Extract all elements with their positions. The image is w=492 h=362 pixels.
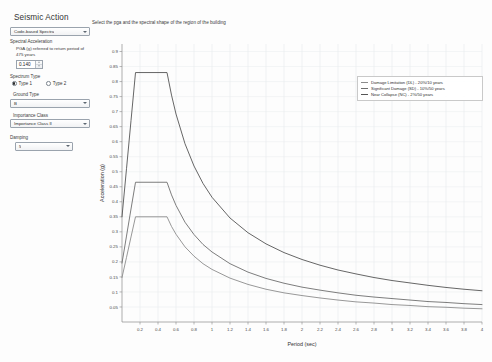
svg-text:0.55: 0.55 — [109, 154, 118, 159]
spectrum-type-label: Spectrum Type — [10, 74, 90, 79]
legend-item: Near Collapse (NC) - 2%/50 years — [361, 91, 479, 97]
chart-legend: Damage Limitation (DL) - 20%/10 years Si… — [357, 76, 483, 101]
radio-type-1[interactable]: Type 1 — [12, 81, 32, 86]
legend-label-dl: Damage Limitation (DL) - 20%/10 years — [371, 80, 443, 85]
svg-text:0.9: 0.9 — [112, 49, 119, 54]
svg-text:2.6: 2.6 — [353, 327, 360, 332]
svg-text:3.8: 3.8 — [461, 327, 468, 332]
damping-dropdown[interactable]: 5 — [15, 142, 73, 151]
svg-text:3.6: 3.6 — [443, 327, 450, 332]
seismic-action-panel: Seismic Action Code-based Spectra Spectr… — [10, 10, 90, 151]
svg-text:2: 2 — [301, 327, 304, 332]
svg-text:0.15: 0.15 — [109, 275, 118, 280]
svg-text:2.8: 2.8 — [371, 327, 378, 332]
radio-type-2-dot — [46, 81, 51, 86]
chevron-down-icon — [83, 31, 87, 33]
svg-text:4: 4 — [481, 327, 484, 332]
chevron-down-icon — [83, 102, 87, 104]
legend-label-nc: Near Collapse (NC) - 2%/50 years — [371, 92, 433, 97]
svg-text:0.2: 0.2 — [137, 327, 144, 332]
importance-class-value: Importance Class II — [11, 121, 52, 126]
svg-text:0.85: 0.85 — [109, 64, 118, 69]
damping-value: 5 — [16, 144, 21, 149]
radio-type-2[interactable]: Type 2 — [46, 81, 66, 86]
svg-text:3.4: 3.4 — [425, 327, 432, 332]
x-axis-title: Period (sec) — [287, 341, 316, 347]
svg-text:3: 3 — [391, 327, 394, 332]
y-axis-title: Acceleration (g) — [99, 164, 105, 202]
svg-text:0.3: 0.3 — [112, 229, 119, 234]
legend-swatch-nc — [361, 94, 368, 95]
svg-text:0.7: 0.7 — [112, 109, 119, 114]
svg-text:1.8: 1.8 — [281, 327, 288, 332]
instruction-text: Select the pga and the spectral shape of… — [92, 20, 226, 25]
damping-label: Damping — [10, 135, 90, 140]
spectra-source-dropdown[interactable]: Code-based Spectra — [10, 27, 90, 36]
legend-swatch-dl — [361, 82, 368, 83]
pga-stepper[interactable]: 0.140 — [16, 60, 43, 70]
svg-text:0.4: 0.4 — [155, 327, 162, 332]
svg-text:0.5: 0.5 — [112, 169, 119, 174]
spectrum-type-radio-group: Type 1 Type 2 — [12, 81, 90, 86]
svg-text:2.2: 2.2 — [317, 327, 324, 332]
svg-text:1.6: 1.6 — [263, 327, 270, 332]
svg-text:0.75: 0.75 — [109, 94, 118, 99]
svg-text:0.05: 0.05 — [109, 305, 118, 310]
svg-text:0.8: 0.8 — [191, 327, 198, 332]
svg-text:0.45: 0.45 — [109, 184, 118, 189]
svg-text:0.1: 0.1 — [112, 290, 119, 295]
svg-text:2.4: 2.4 — [335, 327, 342, 332]
ground-type-value: B — [11, 101, 17, 106]
seismic-action-window: Seismic Action Code-based Spectra Spectr… — [0, 0, 492, 362]
pga-spinner-buttons[interactable] — [35, 61, 42, 69]
svg-text:1.4: 1.4 — [245, 327, 252, 332]
importance-class-dropdown[interactable]: Importance Class II — [10, 119, 90, 128]
svg-text:0.25: 0.25 — [109, 244, 118, 249]
svg-text:0.35: 0.35 — [109, 214, 118, 219]
spectra-source-value: Code-based Spectra — [11, 29, 54, 34]
legend-swatch-sd — [361, 88, 368, 89]
page-title: Seismic Action — [14, 13, 90, 22]
svg-text:0.6: 0.6 — [173, 327, 180, 332]
chevron-down-icon — [66, 145, 70, 147]
svg-text:1.2: 1.2 — [227, 327, 234, 332]
svg-text:0.2: 0.2 — [112, 259, 119, 264]
svg-text:0.8: 0.8 — [112, 79, 119, 84]
ground-type-label: Ground Type — [13, 92, 90, 97]
chevron-down-icon — [83, 123, 87, 125]
pga-decrement-button[interactable] — [36, 65, 42, 68]
svg-text:0.4: 0.4 — [112, 199, 119, 204]
pga-value: 0.140 — [17, 62, 31, 67]
radio-type-1-dot — [12, 81, 17, 86]
importance-class-label: Importance Class — [13, 113, 90, 118]
ground-type-dropdown[interactable]: B — [10, 99, 90, 108]
radio-type-2-label: Type 2 — [53, 81, 67, 86]
spectral-acceleration-label: Spectral Acceleration — [10, 39, 90, 44]
svg-text:3.2: 3.2 — [407, 327, 414, 332]
svg-text:0.65: 0.65 — [109, 124, 118, 129]
legend-label-sd: Significant Damage (SD) - 10%/50 years — [371, 86, 445, 91]
pga-helper-text: PGA (g) referred to return period of 475… — [16, 46, 86, 58]
svg-text:0.6: 0.6 — [112, 139, 119, 144]
svg-text:1: 1 — [211, 327, 214, 332]
radio-type-1-label: Type 1 — [19, 81, 33, 86]
